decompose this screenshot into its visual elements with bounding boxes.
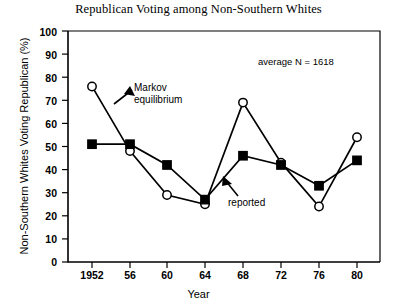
plot-area <box>0 0 397 307</box>
data-point-circle <box>88 82 96 90</box>
data-point-square <box>88 140 97 149</box>
chart-figure: Republican Voting among Non-Southern Whi… <box>0 0 397 307</box>
data-point-circle <box>315 202 323 210</box>
annotation-arrow-markov <box>114 86 135 104</box>
data-point-circle <box>163 191 171 199</box>
y-axis-ticks <box>62 31 68 262</box>
x-axis-ticks <box>92 262 357 268</box>
data-point-square <box>277 161 286 170</box>
data-point-square <box>126 140 135 149</box>
data-point-square <box>239 151 248 160</box>
data-point-square <box>201 195 210 204</box>
annotation-arrow-reported <box>222 176 238 196</box>
data-point-circle <box>239 98 247 106</box>
data-point-square <box>353 156 362 165</box>
series-layer <box>88 82 362 211</box>
axis-frame <box>68 31 380 262</box>
data-point-square <box>315 182 324 191</box>
data-point-circle <box>353 133 361 141</box>
data-point-square <box>163 161 172 170</box>
